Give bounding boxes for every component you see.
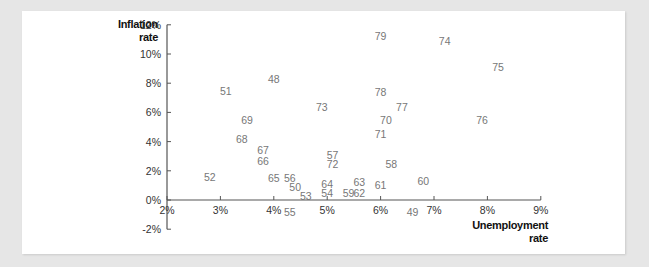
- x-axis-title-line1: Unemployment: [460, 219, 548, 232]
- data-point-label: 75: [492, 61, 504, 73]
- y-axis-title-line2: rate: [100, 31, 158, 44]
- x-tick-label: 9%: [533, 204, 548, 216]
- data-point-label: 56: [284, 172, 296, 184]
- data-point-label: 70: [380, 114, 392, 126]
- y-tick-label: 2%: [146, 165, 161, 177]
- data-point-label: 52: [204, 171, 216, 183]
- data-point-label: 73: [316, 101, 328, 113]
- data-point-label: 74: [439, 35, 451, 47]
- scatter-chart: 12%10%8%6%4%2%0%-2%2%3%4%5%6%7%8%9%48495…: [0, 0, 649, 267]
- x-tick-label: 4%: [266, 204, 281, 216]
- data-point-label: 51: [220, 85, 232, 97]
- data-point-label: 64: [321, 178, 333, 190]
- y-tick-label: 8%: [146, 77, 161, 89]
- data-point-label: 72: [327, 158, 339, 170]
- data-point-label: 63: [353, 176, 365, 188]
- x-axis-title-line2: rate: [460, 232, 548, 245]
- x-tick-label: 7%: [426, 204, 441, 216]
- data-point-label: 65: [268, 172, 280, 184]
- data-point-label: 55: [284, 206, 296, 218]
- x-tick-label: 5%: [320, 204, 335, 216]
- data-point-label: 62: [353, 187, 365, 199]
- data-point-label: 71: [375, 128, 387, 140]
- y-tick-label: 6%: [146, 106, 161, 118]
- data-point-label: 69: [241, 114, 253, 126]
- data-point-label: 53: [300, 190, 312, 202]
- data-point-label: 60: [417, 175, 429, 187]
- y-tick-label: 4%: [146, 136, 161, 148]
- data-point-label: 48: [268, 73, 280, 85]
- x-axis-title: Unemployment rate: [460, 219, 548, 245]
- data-point-label: 68: [236, 133, 248, 145]
- y-tick-label: 10%: [140, 48, 161, 60]
- data-point-label: 49: [407, 206, 419, 218]
- data-point-label: 61: [375, 179, 387, 191]
- x-tick-label: 3%: [213, 204, 228, 216]
- data-point-label: 58: [385, 158, 397, 170]
- data-point-label: 77: [396, 101, 408, 113]
- data-point-label: 76: [476, 114, 488, 126]
- x-tick-label: 6%: [373, 204, 388, 216]
- y-axis-title-line1: Inflation: [100, 18, 158, 31]
- data-point-label: 67: [257, 144, 269, 156]
- x-tick-label: 8%: [480, 204, 495, 216]
- y-tick-label: -2%: [142, 223, 161, 235]
- data-point-label: 78: [375, 86, 387, 98]
- data-point-label: 66: [257, 155, 269, 167]
- x-tick-label: 2%: [159, 204, 174, 216]
- data-point-label: 79: [375, 30, 387, 42]
- y-axis-title: Inflation rate: [100, 18, 158, 44]
